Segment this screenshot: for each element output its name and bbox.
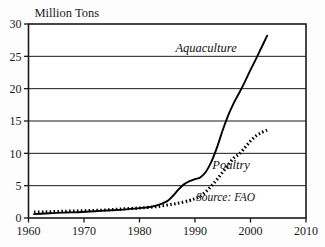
aquaculture-poultry-line-chart: 051015202530 196019701980199020002010 Mi… [0, 0, 325, 247]
y-tick-label-25: 25 [10, 50, 22, 64]
chart-figure: 051015202530 196019701980199020002010 Mi… [0, 0, 325, 247]
y-tick-label-5: 5 [16, 179, 22, 193]
x-tick-label-1970: 1970 [72, 224, 96, 238]
x-tick-label-1960: 1960 [17, 224, 41, 238]
x-tick-label-1990: 1990 [183, 224, 207, 238]
series-label-aquaculture: Aquaculture [174, 41, 237, 55]
x-tick-label-2010: 2010 [294, 224, 318, 238]
x-tick-label-2000: 2000 [239, 224, 263, 238]
y-tick-label-30: 30 [10, 17, 22, 31]
series-label-poultry: Poultry [211, 158, 250, 172]
y-axis-title: Million Tons [35, 6, 100, 20]
y-tick-label-10: 10 [10, 147, 22, 161]
x-tick-label-1980: 1980 [128, 224, 152, 238]
y-tick-label-15: 15 [10, 114, 22, 128]
y-tick-label-20: 20 [10, 82, 22, 96]
source-annotation: Source: FAO [196, 191, 256, 203]
